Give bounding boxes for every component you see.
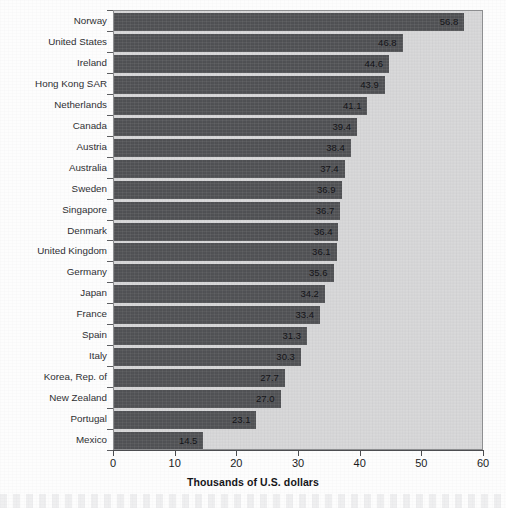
category-label: New Zealand [0, 389, 107, 407]
category-label: Ireland [0, 54, 107, 72]
bar-value-label: 44.6 [347, 55, 383, 73]
category-label: Italy [0, 347, 107, 365]
category-tick [107, 52, 113, 53]
category-tick [107, 115, 113, 116]
x-axis-tick [483, 451, 484, 456]
x-axis-tick [236, 451, 237, 456]
category-label: United Kingdom [0, 242, 107, 260]
category-label: Australia [0, 159, 107, 177]
category-tick [107, 261, 113, 262]
x-axis-tick [421, 451, 422, 456]
category-tick [107, 408, 113, 409]
bar-value-label: 36.4 [296, 223, 332, 241]
x-axis-tick [298, 451, 299, 456]
category-tick [107, 345, 113, 346]
category-label: Canada [0, 117, 107, 135]
x-axis-tick-label: 40 [340, 457, 380, 469]
category-label: Singapore [0, 201, 107, 219]
category-label: Korea, Rep. of [0, 368, 107, 386]
category-tick [107, 220, 113, 221]
page-bleed-through [0, 494, 506, 508]
x-axis-tick [360, 451, 361, 456]
category-tick [107, 324, 113, 325]
category-label: Sweden [0, 180, 107, 198]
x-axis-tick-label: 60 [463, 457, 503, 469]
x-axis-tick-label: 50 [401, 457, 441, 469]
bar-value-label: 35.6 [292, 264, 328, 282]
bar-value-label: 27.0 [239, 390, 275, 408]
category-tick [107, 136, 113, 137]
category-tick [107, 94, 113, 95]
category-label: Portugal [0, 410, 107, 428]
bar-value-label: 46.8 [361, 34, 397, 52]
category-label: United States [0, 33, 107, 51]
bar-value-label: 23.1 [214, 411, 250, 429]
category-tick [107, 10, 113, 11]
category-tick [107, 429, 113, 430]
bar-value-label: 38.4 [309, 139, 345, 157]
x-axis-tick-label: 20 [216, 457, 256, 469]
category-tick [107, 240, 113, 241]
category-label: Austria [0, 138, 107, 156]
bar-value-label: 36.1 [295, 243, 331, 261]
category-label: Denmark [0, 222, 107, 240]
category-label: Norway [0, 12, 107, 30]
x-axis-tick-label: 10 [155, 457, 195, 469]
category-tick [107, 157, 113, 158]
x-axis-title: Thousands of U.S. dollars [0, 476, 506, 488]
bar-value-label: 34.2 [283, 285, 319, 303]
bar-value-label: 43.9 [343, 76, 379, 94]
bar-value-label: 30.3 [259, 348, 295, 366]
bar-value-label: 31.3 [265, 327, 301, 345]
bar-value-label: 14.5 [161, 432, 197, 450]
category-label: Germany [0, 263, 107, 281]
x-axis-tick-label: 0 [93, 457, 133, 469]
x-axis-tick [175, 451, 176, 456]
category-tick [107, 199, 113, 200]
category-tick [107, 387, 113, 388]
category-label: France [0, 305, 107, 323]
bar-value-label: 56.8 [422, 13, 458, 31]
category-tick [107, 31, 113, 32]
category-tick [107, 303, 113, 304]
bar-chart-figure: 56.846.844.643.941.139.438.437.436.936.7… [0, 0, 506, 508]
bar-value-label: 36.7 [298, 202, 334, 220]
bar-value-label: 27.7 [243, 369, 279, 387]
bar-value-label: 41.1 [325, 97, 361, 115]
bar-value-label: 37.4 [303, 160, 339, 178]
category-label: Japan [0, 284, 107, 302]
category-label: Netherlands [0, 96, 107, 114]
bar-value-label: 36.9 [300, 181, 336, 199]
category-tick [107, 178, 113, 179]
category-tick [107, 73, 113, 74]
bar-value-label: 33.4 [278, 306, 314, 324]
category-tick [107, 366, 113, 367]
category-tick [107, 282, 113, 283]
bar-value-label: 39.4 [315, 118, 351, 136]
category-label: Spain [0, 326, 107, 344]
x-axis-tick [113, 451, 114, 456]
category-label: Mexico [0, 431, 107, 449]
x-axis-tick-label: 30 [278, 457, 318, 469]
category-label: Hong Kong SAR [0, 75, 107, 93]
